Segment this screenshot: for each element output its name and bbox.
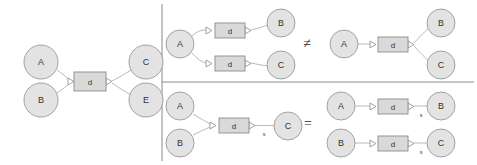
equal-symbol: = xyxy=(304,116,312,131)
edge-b-to-d xyxy=(193,127,210,135)
edge-d-to-e xyxy=(112,83,131,95)
node-c[interactable]: C xyxy=(274,112,302,140)
port-marker-input-2 xyxy=(206,60,212,67)
node-c[interactable]: C xyxy=(129,45,163,79)
node-label: B xyxy=(38,95,44,105)
port-marker-output-1 xyxy=(245,27,251,34)
edge-d-to-b xyxy=(414,28,429,43)
node-label: A xyxy=(177,101,183,111)
port-marker-output xyxy=(408,41,414,48)
edge-a-to-d2 xyxy=(192,53,206,63)
edge-d2-to-c xyxy=(251,63,268,66)
node-a[interactable]: A xyxy=(330,30,358,58)
node-a[interactable]: A xyxy=(24,45,58,79)
node-label: B xyxy=(438,101,444,111)
node-c[interactable]: C xyxy=(427,51,455,79)
edge-a-to-d1 xyxy=(192,30,206,36)
port-marker-input-1 xyxy=(370,103,376,110)
top-middle-panel: d d A B C xyxy=(166,9,295,79)
hyperedge-box-label: d xyxy=(391,140,395,149)
top-right-panel: d A B C xyxy=(330,9,455,79)
diagram-svg: d A B C E xyxy=(0,0,477,165)
edge-label-s-upper: s xyxy=(420,112,423,118)
node-label: E xyxy=(143,95,149,105)
node-label: A xyxy=(341,39,347,49)
edge-a-to-d xyxy=(193,114,210,124)
node-c[interactable]: C xyxy=(267,51,295,79)
port-marker-input-1 xyxy=(206,27,212,34)
edge-d-to-c xyxy=(414,46,429,61)
node-a[interactable]: A xyxy=(166,30,194,58)
bottom-middle-panel: d s A B C xyxy=(166,92,302,157)
node-b[interactable]: B xyxy=(427,9,455,37)
node-label: C xyxy=(285,121,292,131)
port-marker-input xyxy=(68,78,74,85)
node-b[interactable]: B xyxy=(24,83,58,117)
hyperedge-box-label: d xyxy=(228,27,232,36)
port-marker-input-2 xyxy=(370,140,376,147)
port-marker-output-2 xyxy=(408,140,414,147)
node-b-lower[interactable]: B xyxy=(327,129,355,157)
node-e[interactable]: E xyxy=(129,83,163,117)
hyperedge-box-label: d xyxy=(88,78,92,87)
edge-d1-to-b xyxy=(251,25,268,30)
edge-label-s: s xyxy=(263,131,266,137)
panel-dividers xyxy=(162,4,474,161)
not-equal-symbol: ≠ xyxy=(303,36,311,51)
port-marker-output-1 xyxy=(408,103,414,110)
hyperedge-box-label: d xyxy=(228,60,232,69)
left-panel: d A B C E xyxy=(24,45,163,117)
hyperedge-box-label: d xyxy=(232,122,236,131)
node-b[interactable]: B xyxy=(267,9,295,37)
node-label: A xyxy=(177,39,183,49)
port-marker-output xyxy=(249,122,255,129)
bottom-right-panel: d d s s A B B C xyxy=(327,92,455,157)
port-marker-output-2 xyxy=(245,60,251,67)
hyperedge-box-label: d xyxy=(391,41,395,50)
node-label: B xyxy=(438,18,444,28)
node-label: C xyxy=(278,60,285,70)
node-label: A xyxy=(38,57,44,67)
node-b-upper[interactable]: B xyxy=(427,92,455,120)
port-marker-input xyxy=(370,41,376,48)
node-b[interactable]: B xyxy=(166,129,194,157)
node-label: A xyxy=(338,101,344,111)
node-a[interactable]: A xyxy=(327,92,355,120)
node-label: B xyxy=(177,138,183,148)
edge-label-s-lower: s xyxy=(420,149,423,155)
node-label: C xyxy=(438,138,445,148)
edge-d-to-c xyxy=(112,70,131,81)
hyperedge-box-label: d xyxy=(391,103,395,112)
node-label: C xyxy=(143,57,150,67)
node-c[interactable]: C xyxy=(427,129,455,157)
node-label: C xyxy=(438,60,445,70)
node-label: B xyxy=(278,18,284,28)
port-marker-input xyxy=(210,122,216,129)
node-a[interactable]: A xyxy=(166,92,194,120)
relation-symbols: ≠ = xyxy=(303,36,312,131)
node-label: B xyxy=(338,138,344,148)
port-marker-output xyxy=(106,78,112,85)
diagram-canvas: d A B C E xyxy=(0,0,477,165)
